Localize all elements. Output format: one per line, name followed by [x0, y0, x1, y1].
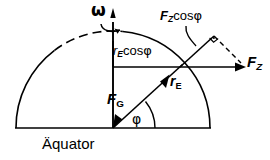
- fz-label: FZ: [247, 54, 262, 72]
- re-cos-phi-cos: cos: [123, 43, 143, 58]
- latitude-angle-label: φ: [132, 112, 141, 126]
- fg-subscript: G: [116, 98, 124, 109]
- fz-symbol: F: [247, 53, 256, 70]
- hemisphere-arc-solid: [16, 50, 55, 128]
- re-label: rE: [170, 74, 182, 91]
- fz-cos-phi-angle: φ: [193, 8, 202, 23]
- fz-subscript: Z: [256, 61, 262, 72]
- fz-cos-phi-symbol: F: [160, 8, 168, 23]
- omega-label: ω: [91, 2, 106, 19]
- fz-cos-phi-label: FZcosφ: [160, 9, 202, 24]
- right-angle-dot-icon: [213, 37, 215, 39]
- fg-label: FG: [107, 91, 124, 109]
- fg-symbol: F: [107, 90, 116, 107]
- re-cos-phi-label: rEcosφ: [113, 44, 152, 59]
- diagram-canvas: [0, 0, 270, 160]
- fz-component-dashed-leg: [214, 36, 241, 63]
- fz-vector-arrowhead-icon: [235, 63, 246, 72]
- re-subscript: E: [175, 81, 181, 91]
- polar-axis-arrowhead-icon: [110, 8, 115, 18]
- equator-label: Äquator: [42, 136, 95, 151]
- fz-component-leg: [180, 36, 214, 67]
- fz-cos-phi-cos: cos: [173, 8, 193, 23]
- physics-diagram-figure: ω FZcosφ rEcosφ FZ rE FG φ Äquator: [0, 0, 270, 160]
- fzcosphi-leader-line: [186, 26, 196, 46]
- re-cos-phi-angle: φ: [143, 43, 152, 58]
- radius-vector-arrowhead-icon: [160, 75, 170, 89]
- latitude-angle-arc: [146, 102, 156, 129]
